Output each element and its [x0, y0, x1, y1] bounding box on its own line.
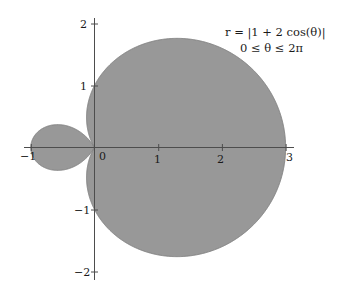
equation-annotation: r = |1 + 2 cos(θ)| [225, 25, 326, 41]
y-tick-label-1: 1 [80, 81, 87, 92]
x-tick-label--1: −1 [20, 151, 36, 162]
x-tick-label-3: 3 [286, 152, 293, 163]
y-tick-label-2: 2 [80, 19, 87, 30]
x-tick-label-0: 0 [99, 151, 106, 162]
x-tick-label-1: 1 [154, 154, 161, 165]
y-tick-label--1: −1 [74, 205, 90, 216]
x-tick-label-2: 2 [217, 154, 224, 165]
polar-plot-figure: −1 0 1 2 3 2 1 −1 −2 r = |1 + 2 cos(θ)| … [0, 0, 352, 294]
y-tick-label--2: −2 [74, 267, 90, 278]
theta-domain-annotation: 0 ≤ θ ≤ 2π [240, 41, 303, 57]
